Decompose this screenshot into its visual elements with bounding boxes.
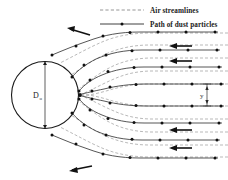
dust-particle-dot (220, 105, 223, 108)
obstacle-circle-group: D o (12, 62, 79, 129)
streamline (60, 127, 228, 157)
dimension-bracket-group: y (200, 84, 211, 106)
dust-particle-dot (71, 76, 74, 79)
dust-particle-dot (133, 121, 136, 124)
arrow-head-icon (69, 167, 78, 173)
dust-particle-dot (91, 90, 94, 93)
dust-path-line (79, 67, 222, 91)
dust-particle-dot (78, 98, 81, 101)
dust-particle-dot (218, 66, 221, 69)
dust-particle-dot (185, 157, 188, 160)
dust-particle-dot (129, 31, 132, 34)
streamline (80, 58, 228, 88)
arrow-head-icon (67, 26, 75, 32)
dust-particle-dot (189, 66, 192, 69)
flow-arrow (69, 166, 92, 173)
dust-path-row (51, 31, 219, 57)
dust-particle-dot (163, 83, 166, 86)
flow-arrow (169, 43, 192, 49)
dust-particle-dot (75, 45, 78, 48)
dust-path-line (72, 113, 220, 140)
flow-arrow (169, 145, 192, 151)
dust-particle-dot (216, 139, 219, 142)
dust-particle-dot (135, 104, 138, 107)
dust-particle-dot (91, 98, 94, 101)
dust-path-line (52, 135, 218, 158)
dust-particle-dot (161, 122, 164, 125)
dimension-arrow-bottom-icon (205, 100, 208, 104)
dust-particle-dot (83, 124, 86, 127)
dust-particle-dot (129, 156, 132, 159)
dust-particle-dot (214, 31, 217, 34)
dust-particle-dot (71, 112, 74, 115)
dust-particle-dot (161, 66, 164, 69)
dust-particle-dot (131, 49, 134, 52)
dust-path-row (51, 134, 219, 160)
dust-particle-dot (109, 102, 112, 105)
flow-arrow (169, 58, 192, 64)
dust-path-line (72, 50, 220, 77)
legend: Air streamlines Path of dust particles (100, 7, 218, 29)
dust-particle-dot (131, 138, 134, 141)
dust-particle-dot (51, 134, 54, 137)
legend-item-air-streamlines: Air streamlines (100, 7, 199, 15)
dust-particle-dot (157, 31, 160, 34)
dust-particle-dot (216, 49, 219, 52)
dust-particle-dot (102, 153, 105, 156)
dust-particle-flow-diagram: Air streamlines Path of dust particles D… (0, 0, 228, 180)
dimension-arrow-top-icon (205, 86, 208, 90)
dust-particle-dot (107, 70, 110, 73)
dust-particle-dot (159, 49, 162, 52)
dust-particle-dot (220, 83, 223, 86)
dust-path-row (78, 66, 223, 93)
legend-dot-marker-icon (121, 23, 124, 26)
dust-particle-dot (79, 94, 82, 97)
dust-path-row (71, 112, 221, 142)
dust-particle-dot (107, 117, 110, 120)
dimension-label: y (200, 92, 204, 100)
dust-particle-dot (214, 157, 217, 160)
dust-particle-dot (189, 122, 192, 125)
dust-particle-dot (109, 86, 112, 89)
dust-particle-dot (191, 83, 194, 86)
dust-particle-dot (78, 90, 81, 93)
obstacle-diameter-label: D (33, 91, 39, 100)
dust-particle-dot (89, 109, 92, 112)
streamline (80, 102, 228, 132)
dust-particle-dot (185, 31, 188, 34)
dust-particle-dot (135, 83, 138, 86)
dust-particle-dot (187, 49, 190, 52)
dust-particle-dot (105, 54, 108, 57)
arrow-head-icon (169, 58, 177, 64)
arrow-head-icon (169, 43, 177, 49)
dust-path-row (78, 98, 223, 125)
legend-label-air-streamlines: Air streamlines (150, 7, 199, 15)
legend-label-dust-path: Path of dust particles (150, 21, 218, 29)
dust-particle-dot (75, 143, 78, 146)
dust-particle-dot (83, 64, 86, 67)
dust-particle-dot (51, 54, 54, 57)
dust-particle-dot (191, 105, 194, 108)
flow-direction-arrows-group (67, 26, 192, 173)
dust-particle-dot (102, 35, 105, 38)
flow-arrow (67, 26, 90, 35)
dust-particle-dot (159, 139, 162, 142)
dust-path-line (79, 99, 222, 123)
dust-particle-dot (133, 66, 136, 69)
dust-path-row (71, 49, 221, 79)
arrow-head-icon (169, 145, 177, 151)
streamline (60, 33, 228, 63)
dust-particle-dot (89, 79, 92, 82)
dust-particle-dot (163, 105, 166, 108)
legend-item-dust-path: Path of dust particles (100, 21, 218, 29)
dust-particle-dot (187, 139, 190, 142)
dust-particle-dot (218, 122, 221, 125)
dust-path-line (52, 32, 218, 55)
dust-particle-dot (157, 157, 160, 160)
dust-particle-dot (105, 134, 108, 137)
